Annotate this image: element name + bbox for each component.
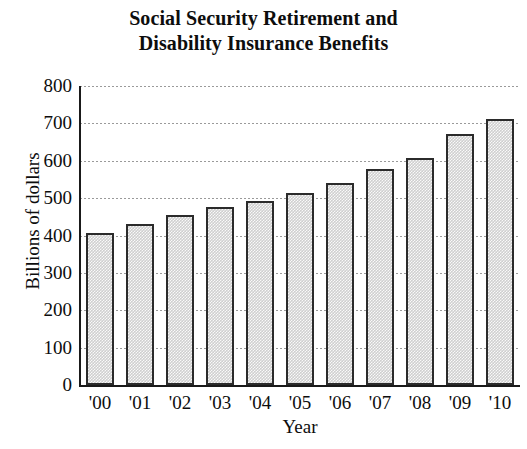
y-axis-label: Billions of dollars [22,111,44,331]
bar [166,215,194,385]
x-axis-tick-label: '10 [489,392,511,414]
x-axis-spine [79,385,520,387]
chart-title-line-1: Social Security Retirement and [0,6,527,31]
bar [286,193,314,385]
bar [326,183,354,385]
y-axis-tick-label: 100 [44,337,73,359]
y-axis-tick-label: 600 [44,150,73,172]
chart-title: Social Security Retirement and Disabilit… [0,6,527,56]
y-axis-tick-label: 0 [63,374,73,396]
chart-figure: Social Security Retirement and Disabilit… [0,0,527,449]
x-axis-tick-label: '06 [329,392,351,414]
bar [486,119,514,385]
x-axis-tick-label: '02 [169,392,191,414]
bar [246,201,274,385]
x-axis-tick-label: '01 [129,392,151,414]
x-axis-tick-label: '04 [249,392,271,414]
x-axis-tick-label: '03 [209,392,231,414]
chart-title-line-2: Disability Insurance Benefits [0,31,527,56]
x-axis-tick-label: '05 [289,392,311,414]
bar [366,169,394,385]
x-axis-tick-label: '08 [409,392,431,414]
plot-area: 0100200300400500600700800 '00'01'02'03'0… [80,86,520,385]
x-axis-tick-label: '09 [449,392,471,414]
bar [206,207,234,385]
y-axis-tick-label: 400 [44,225,73,247]
y-axis-tick-label: 300 [44,262,73,284]
y-axis-tick-label: 500 [44,187,73,209]
bar [126,224,154,385]
y-axis-tick-label: 800 [44,75,73,97]
x-axis-tick-label: '00 [89,392,111,414]
y-axis-spine [79,86,81,387]
y-axis-tick-label: 700 [44,112,73,134]
y-axis-tick-label: 200 [44,299,73,321]
gridline [80,123,520,124]
gridline [80,86,520,87]
bar [446,134,474,385]
bar [86,233,114,385]
x-axis-label: Year [80,416,520,438]
x-axis-tick-label: '07 [369,392,391,414]
bar [406,158,434,385]
